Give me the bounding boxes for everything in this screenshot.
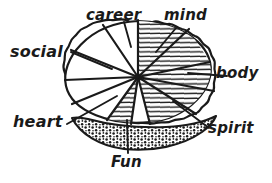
label-heart: heart — [13, 114, 63, 130]
label-career: career — [86, 8, 141, 23]
label-spirit: spirit — [208, 121, 254, 136]
label-social: social — [10, 44, 63, 60]
label-mind: mind — [164, 8, 207, 23]
diagram-canvas: social career mind body spirit heart Fun — [0, 0, 272, 183]
label-fun: Fun — [111, 155, 142, 170]
label-body: body — [216, 66, 258, 81]
